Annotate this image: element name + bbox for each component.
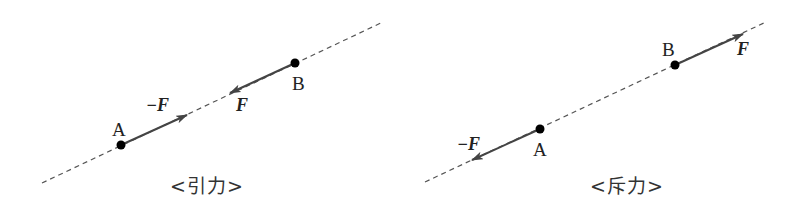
- point-a-dot: [117, 141, 126, 150]
- repulsion-panel: [425, 22, 766, 182]
- caption-attraction: <引力>: [170, 177, 244, 196]
- point-a-label: A: [533, 140, 547, 159]
- point-b-dot: [291, 59, 300, 68]
- vector-neg-f-label: −F: [457, 135, 480, 153]
- point-b-label: B: [292, 74, 305, 93]
- vector-neg-f-arrow: [472, 129, 540, 160]
- caption-repulsion: <斥力>: [590, 177, 664, 196]
- vector-neg-f-arrow: [121, 115, 187, 145]
- attraction-panel: [42, 22, 383, 183]
- vector-f-arrow: [230, 63, 295, 93]
- point-b-dot: [671, 61, 680, 70]
- vector-f-arrow: [675, 34, 743, 65]
- vector-neg-f-label: −F: [146, 96, 169, 114]
- point-a-dot: [536, 125, 545, 134]
- force-diagram: [0, 0, 808, 212]
- dashed-line-of-action: [42, 22, 383, 183]
- vector-f-label: F: [737, 40, 749, 58]
- point-a-label: A: [112, 120, 126, 139]
- vector-f-label: F: [236, 96, 248, 114]
- point-b-label: B: [662, 40, 675, 59]
